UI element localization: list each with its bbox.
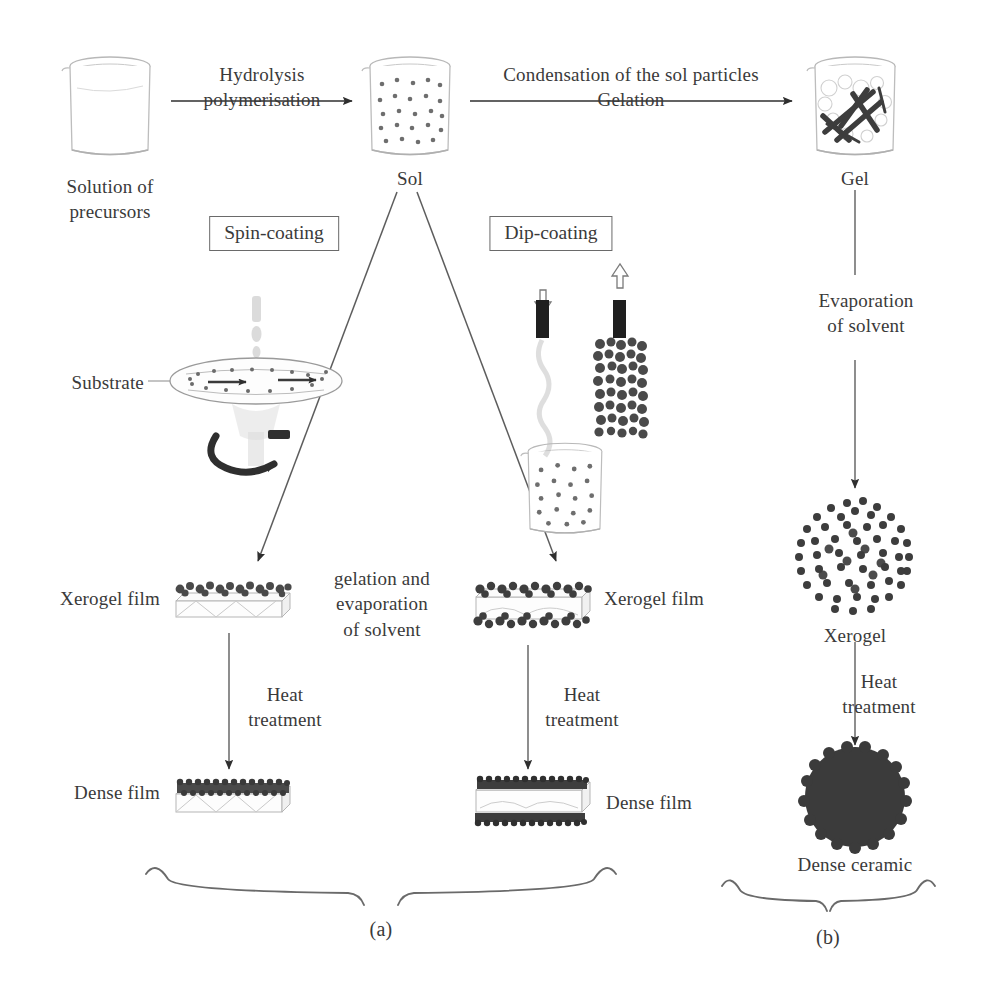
method-box-spin-coating[interactable]: Spin-coating [209, 216, 339, 251]
node-label-substrate: Substrate [71, 370, 144, 395]
process-label-hydrolysis: Hydrolysis polymerisation [204, 62, 321, 113]
dip-down-substrate [535, 290, 551, 456]
film-single-coated-icon [176, 582, 292, 618]
film-double-dense-icon [475, 776, 590, 826]
node-label-gel: Gel [841, 166, 869, 191]
dip-up-substrate [612, 264, 628, 338]
process-label-evaporation-of-solvent: Evaporation of solvent [818, 288, 913, 339]
beaker-dip-bath-icon [521, 443, 602, 533]
process-label-heat-treatment-middle: Heat treatment [545, 682, 619, 733]
dip-coating-wet-film [593, 338, 649, 439]
node-label-xerogel-film-right: Xerogel film [604, 586, 704, 611]
beaker-sol-particles-icon [362, 57, 450, 155]
film-double-coated-icon [473, 582, 591, 628]
node-label-dense-film-left: Dense film [74, 780, 160, 805]
dense-sphere-icon [798, 741, 912, 854]
dip-coating-apparatus-icon [535, 264, 649, 456]
porous-sphere-icon [795, 497, 913, 615]
brace-a [146, 868, 616, 905]
process-label-gelation-and-evaporation: gelation and evaporation of solvent [334, 566, 430, 642]
node-label-dense-ceramic: Dense ceramic [798, 852, 913, 877]
process-label-condensation: Condensation of the sol particles Gelati… [503, 62, 759, 113]
brace-b [722, 880, 935, 911]
node-label-dense-film-right: Dense film [606, 790, 692, 815]
node-label-xerogel-film-left: Xerogel film [60, 586, 160, 611]
node-label-solution-of-precursors: Solution of precursors [66, 174, 153, 225]
method-box-dip-coating[interactable]: Dip-coating [489, 216, 612, 251]
beaker-clear-icon [62, 57, 150, 155]
film-single-dense-icon [176, 779, 290, 812]
process-label-heat-treatment-left: Heat treatment [248, 682, 322, 733]
beaker-gel-network-icon [807, 57, 895, 155]
process-label-heat-treatment-right: Heat treatment [842, 669, 916, 720]
caption-b: (b) [816, 924, 840, 951]
node-label-xerogel: Xerogel [824, 623, 887, 648]
caption-a: (a) [370, 916, 393, 943]
node-label-sol: Sol [397, 166, 423, 191]
diagram-canvas: Hydrolysis polymerisation Condensation o… [0, 0, 984, 990]
spin-coating-apparatus-icon [170, 296, 342, 472]
diagram-vector-layer [0, 0, 984, 990]
